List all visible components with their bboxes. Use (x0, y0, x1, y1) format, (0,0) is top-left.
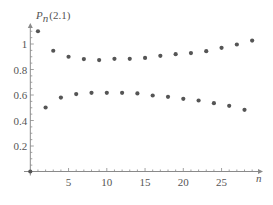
x-tick-label: 15 (140, 176, 152, 188)
data-point (112, 57, 116, 61)
y-axis-arrow-icon (28, 23, 33, 28)
data-point (44, 105, 48, 109)
data-point (212, 101, 216, 105)
data-point (242, 108, 246, 112)
x-tick-label: 5 (66, 176, 72, 188)
data-point (151, 93, 155, 97)
ticks (30, 31, 252, 171)
data-points (28, 29, 254, 173)
data-point (166, 95, 170, 99)
x-tick-label: 20 (178, 176, 190, 188)
y-tick-label: 0.4 (14, 115, 28, 127)
y-label-sub: n (43, 12, 49, 24)
data-point (82, 57, 86, 61)
y-label-arg: (2.1) (49, 9, 70, 22)
data-point (28, 169, 32, 173)
data-point (97, 58, 101, 62)
data-point (181, 97, 185, 101)
data-point (227, 104, 231, 108)
x-tick-label: 10 (101, 176, 113, 188)
data-point (219, 46, 223, 50)
y-tick-label: 0.2 (14, 140, 28, 152)
y-tick-label: 0.6 (14, 89, 28, 101)
data-point (128, 57, 132, 61)
y-axis-label: Pn(2.1) (35, 9, 71, 24)
y-tick-label: 1 (22, 38, 28, 50)
data-point (197, 98, 201, 102)
data-point (135, 91, 139, 95)
data-point (158, 54, 162, 58)
data-point (66, 55, 70, 59)
tick-labels: 5101520250.20.40.60.81 (14, 38, 228, 188)
data-point (204, 49, 208, 53)
data-point (174, 52, 178, 56)
data-point (105, 91, 109, 95)
x-axis-label: n (256, 172, 262, 184)
data-point (74, 92, 78, 96)
data-point (250, 38, 254, 42)
data-point (59, 95, 63, 99)
data-point (120, 91, 124, 95)
data-point (235, 42, 239, 46)
data-point (89, 91, 93, 95)
x-tick-label: 25 (216, 176, 228, 188)
y-tick-label: 0.8 (14, 64, 28, 76)
data-point (51, 49, 55, 53)
data-point (189, 51, 193, 55)
scatter-chart: 5101520250.20.40.60.81 Pn(2.1) n (0, 0, 273, 205)
data-point (143, 56, 147, 60)
data-point (36, 29, 40, 33)
